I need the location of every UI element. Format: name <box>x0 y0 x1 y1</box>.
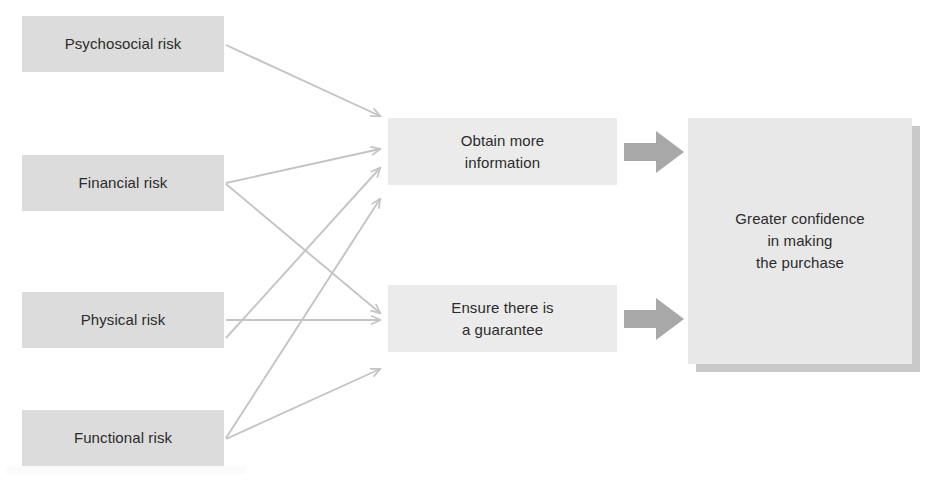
connector-financial-to-guarantee <box>226 184 380 313</box>
risk-label-physical: Physical risk <box>81 309 166 331</box>
connector-physical-to-obtain-info <box>226 168 380 338</box>
risk-box-physical[interactable]: Physical risk <box>22 292 224 348</box>
block-arrow-guarantee-to-outcome <box>624 298 684 340</box>
risk-box-financial[interactable]: Financial risk <box>22 155 224 211</box>
action-line-1: Ensure there is <box>451 297 553 319</box>
risk-label-financial: Financial risk <box>79 172 168 194</box>
action-line-2: information <box>461 152 545 174</box>
risk-label-functional: Functional risk <box>74 427 172 449</box>
action-line-1: Obtain more <box>461 130 545 152</box>
connector-financial-to-obtain-info <box>226 149 380 183</box>
connector-functional-to-obtain-info <box>226 199 380 438</box>
page-edge-artifact <box>6 466 246 474</box>
action-box-guarantee[interactable]: Ensure there is a guarantee <box>388 285 617 352</box>
risk-box-psychosocial[interactable]: Psychosocial risk <box>22 16 224 72</box>
action-label-guarantee: Ensure there is a guarantee <box>451 297 553 341</box>
block-arrow-obtain-info-to-outcome <box>624 131 684 173</box>
outcome-label: Greater confidence in making the purchas… <box>735 208 864 273</box>
outcome-line-1: Greater confidence <box>735 208 864 230</box>
risk-label-psychosocial: Psychosocial risk <box>65 33 182 55</box>
risk-box-functional[interactable]: Functional risk <box>22 410 224 466</box>
connector-psychosocial-to-obtain-info <box>226 45 380 116</box>
outcome-line-2: in making <box>735 230 864 252</box>
outcome-box-greater-confidence[interactable]: Greater confidence in making the purchas… <box>688 118 912 364</box>
outcome-line-3: the purchase <box>735 252 864 274</box>
action-label-obtain-info: Obtain more information <box>461 130 545 174</box>
diagram-canvas: Psychosocial risk Financial risk Physica… <box>0 0 928 483</box>
action-box-obtain-info[interactable]: Obtain more information <box>388 118 617 185</box>
action-line-2: a guarantee <box>451 319 553 341</box>
connector-functional-to-guarantee <box>226 369 380 439</box>
